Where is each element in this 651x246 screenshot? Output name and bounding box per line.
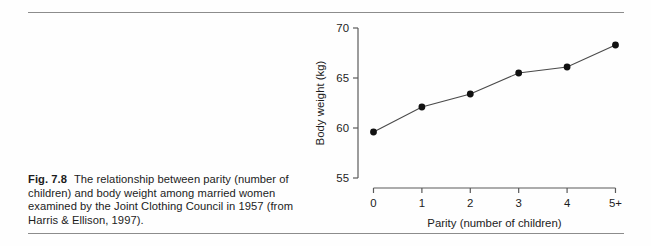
x-tick-label: 0 <box>370 197 376 209</box>
figure-number: Fig. 7.8 <box>28 173 67 185</box>
x-axis-title: Parity (number of children) <box>427 217 561 229</box>
y-tick-label: 60 <box>336 122 349 134</box>
x-axis-tick-labels: 012345+ <box>370 197 622 209</box>
y-tick-label: 65 <box>336 72 349 84</box>
data-point <box>370 129 377 136</box>
y-tick-label: 55 <box>336 172 349 184</box>
line-chart-svg: 55606570 Body weight (kg) 012345+ Parity… <box>300 12 645 232</box>
x-axis: 012345+ Parity (number of children) <box>370 188 622 229</box>
x-tick-label: 3 <box>516 197 522 209</box>
chart-plot-area: 55606570 Body weight (kg) 012345+ Parity… <box>300 12 645 232</box>
x-tick-label: 5+ <box>609 197 622 209</box>
figure-caption: Fig. 7.8The relationship between parity … <box>28 173 320 227</box>
x-tick-label: 1 <box>419 197 425 209</box>
data-point <box>515 70 522 77</box>
y-axis-title: Body weight (kg) <box>314 60 326 145</box>
data-point <box>418 104 425 111</box>
data-point <box>612 42 619 49</box>
data-line-path <box>373 45 615 132</box>
data-point-markers <box>370 42 619 136</box>
data-point <box>564 64 571 71</box>
y-axis: 55606570 Body weight (kg) <box>314 22 358 184</box>
data-series-body-weight <box>370 42 619 136</box>
x-tick-label: 2 <box>467 197 473 209</box>
figure-caption-text: The relationship between parity (number … <box>28 173 293 226</box>
y-axis-ticks <box>353 28 358 178</box>
figure-container: Fig. 7.8The relationship between parity … <box>0 0 651 246</box>
data-point <box>467 91 474 98</box>
x-tick-label: 4 <box>564 197 570 209</box>
figure-bottom-rule <box>28 233 624 234</box>
y-tick-label: 70 <box>336 22 349 34</box>
x-axis-ticks <box>373 188 615 193</box>
y-axis-tick-labels: 55606570 <box>336 22 349 184</box>
